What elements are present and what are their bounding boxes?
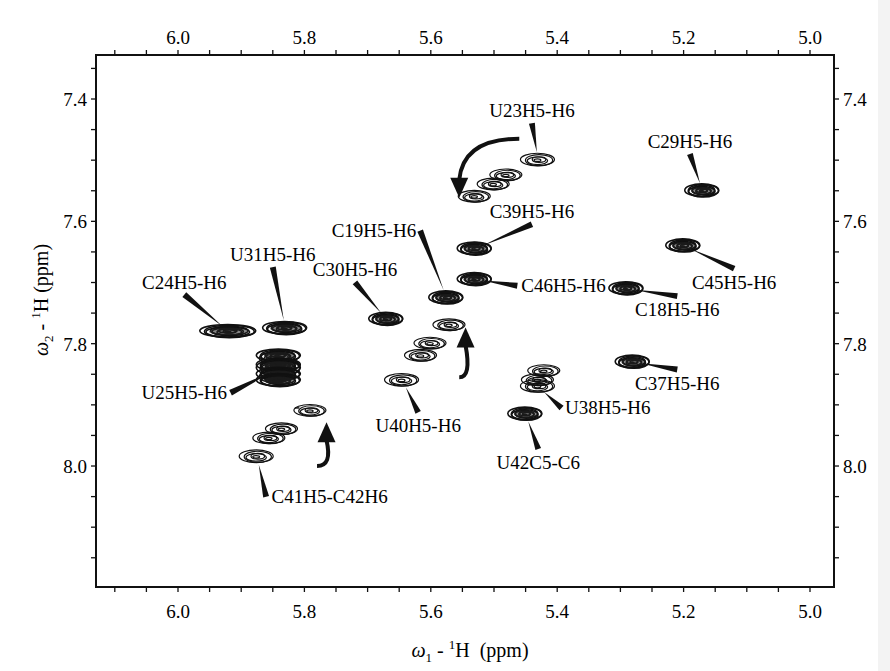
x-tick-label-top: 5.8 bbox=[293, 27, 317, 48]
y-tick-label-right: 7.8 bbox=[843, 334, 867, 355]
y-tick-label-left: 7.8 bbox=[63, 334, 87, 355]
peak-contour-unlabeled bbox=[433, 319, 465, 331]
leader-wedge bbox=[270, 266, 284, 320]
leader-wedge bbox=[544, 392, 563, 410]
peak-contour bbox=[429, 291, 463, 304]
peak-label: C24H5-H6 bbox=[142, 272, 226, 293]
leader-wedge bbox=[482, 222, 533, 246]
curved-arrow bbox=[457, 327, 475, 377]
y-tick-label-left: 7.6 bbox=[63, 211, 87, 232]
peak-contour bbox=[685, 184, 719, 197]
peak-label: C45H5-H6 bbox=[692, 272, 776, 293]
leader-wedge bbox=[353, 280, 382, 313]
y-axis-left-ticks: 7.47.67.88.0 bbox=[63, 68, 96, 557]
leader-wedge bbox=[641, 363, 678, 372]
leader-wedge bbox=[687, 153, 700, 183]
leader-wedge bbox=[406, 388, 421, 414]
leader-wedge bbox=[529, 123, 537, 152]
peak-contour bbox=[200, 325, 256, 338]
peak-contour bbox=[369, 312, 403, 325]
peak-label: C39H5-H6 bbox=[490, 201, 574, 222]
x-tick-label-top: 5.2 bbox=[672, 27, 696, 48]
peak-contour bbox=[615, 355, 649, 368]
leader-wedge bbox=[417, 230, 443, 291]
y-axis-label: ω2 - 1H (ppm) bbox=[28, 244, 56, 356]
x-tick-label-top: 5.4 bbox=[545, 27, 569, 48]
y-tick-label-right: 7.6 bbox=[843, 211, 867, 232]
x-axis-bottom-ticks: 6.05.85.65.45.25.0 bbox=[115, 587, 822, 622]
x-tick-label-bottom: 5.6 bbox=[419, 601, 443, 622]
peak-contour bbox=[457, 273, 491, 286]
y-tick-label-left: 8.0 bbox=[63, 456, 87, 477]
peak-contour bbox=[239, 450, 273, 463]
curved-arrow bbox=[317, 422, 335, 466]
peak-contour-unlabeled bbox=[294, 405, 326, 417]
peak-labels: U23H5-H6C29H5-H6C39H5-H6C45H5-H6C19H5-H6… bbox=[142, 100, 777, 506]
leader-wedge bbox=[182, 292, 222, 326]
peak-contour bbox=[666, 239, 700, 252]
peak-label: C41H5-C42H6 bbox=[272, 486, 388, 507]
peak-label: C46H5-H6 bbox=[521, 275, 605, 296]
peak-label: U42C5-C6 bbox=[497, 452, 580, 473]
peak-contour bbox=[263, 321, 307, 334]
peak-label: U40H5-H6 bbox=[375, 415, 461, 436]
x-tick-label-bottom: 5.4 bbox=[545, 601, 569, 622]
peak-contour-unlabeled bbox=[477, 178, 509, 190]
peak-contour-unlabeled bbox=[253, 432, 285, 444]
x-tick-label-top: 6.0 bbox=[166, 27, 190, 48]
peak-contour bbox=[508, 407, 542, 420]
page-edge bbox=[878, 0, 890, 671]
x-axis-top-ticks: 6.05.85.65.45.25.0 bbox=[115, 27, 822, 55]
x-tick-label-bottom: 5.8 bbox=[293, 601, 317, 622]
peak-contour bbox=[385, 373, 419, 386]
leader-wedge bbox=[528, 422, 541, 451]
y-axis-right-ticks: 7.47.67.88.0 bbox=[834, 68, 867, 557]
leader-wedge bbox=[691, 249, 736, 271]
leader-wedge bbox=[635, 290, 678, 299]
peak-label: C30H5-H6 bbox=[313, 259, 397, 280]
peak-label: U38H5-H6 bbox=[565, 397, 651, 418]
peak-label: U25H5-H6 bbox=[142, 382, 228, 403]
peak-label: C29H5-H6 bbox=[648, 131, 732, 152]
x-tick-label-bottom: 5.2 bbox=[672, 601, 696, 622]
y-tick-label-right: 7.4 bbox=[843, 89, 867, 110]
leader-wedge bbox=[483, 281, 518, 289]
y-tick-label-right: 8.0 bbox=[843, 456, 867, 477]
peak-contour-unlabeled bbox=[414, 337, 446, 349]
peak-contour bbox=[609, 282, 643, 295]
nmr-spectrum-chart: 6.05.85.65.45.25.0 6.05.85.65.45.25.0 7.… bbox=[0, 0, 890, 671]
x-tick-label-top: 5.6 bbox=[419, 27, 443, 48]
peak-contour-unlabeled bbox=[458, 190, 490, 202]
y-tick-label-left: 7.4 bbox=[63, 89, 87, 110]
peak-label: C37H5-H6 bbox=[635, 373, 719, 394]
peak-label: U23H5-H6 bbox=[489, 100, 575, 121]
peak-label: U31H5-H6 bbox=[230, 244, 316, 265]
x-tick-label-top: 5.0 bbox=[798, 27, 822, 48]
peak-label: C18H5-H6 bbox=[635, 299, 719, 320]
peak-label: C19H5-H6 bbox=[332, 220, 416, 241]
x-axis-label: ω1 - 1H (ppm) bbox=[411, 637, 528, 665]
x-tick-label-bottom: 6.0 bbox=[166, 601, 190, 622]
peak-contour bbox=[520, 153, 554, 166]
x-tick-label-bottom: 5.0 bbox=[798, 601, 822, 622]
leader-wedge bbox=[259, 465, 269, 498]
peak-contour-unlabeled bbox=[405, 349, 437, 361]
